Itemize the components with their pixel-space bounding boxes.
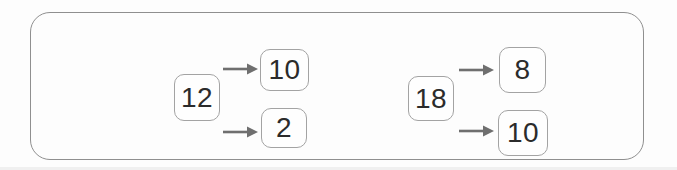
target-number-left-bottom: 2 bbox=[276, 114, 292, 142]
target-number-right-top: 8 bbox=[514, 56, 530, 84]
target-number-box-left-bottom: 2 bbox=[261, 108, 307, 148]
right-arrow-icon bbox=[222, 62, 259, 76]
right-arrow-icon bbox=[458, 63, 495, 77]
target-number-box-left-top: 10 bbox=[260, 49, 309, 91]
diagram-frame: 12 10 2 18 8 1 bbox=[30, 12, 644, 160]
target-number-left-top: 10 bbox=[268, 56, 300, 84]
target-number-box-right-bottom: 10 bbox=[498, 110, 548, 156]
source-number-right: 18 bbox=[415, 85, 447, 113]
source-number-left: 12 bbox=[181, 84, 213, 112]
right-arrow-icon bbox=[222, 125, 259, 139]
worksheet-diagram: 12 10 2 18 8 1 bbox=[0, 0, 677, 170]
target-number-box-right-top: 8 bbox=[499, 47, 546, 93]
photo-bottom-edge bbox=[0, 167, 677, 170]
source-number-box-left: 12 bbox=[174, 74, 220, 121]
right-arrow-icon bbox=[458, 124, 495, 138]
target-number-right-bottom: 10 bbox=[507, 119, 539, 147]
source-number-box-right: 18 bbox=[408, 76, 454, 121]
